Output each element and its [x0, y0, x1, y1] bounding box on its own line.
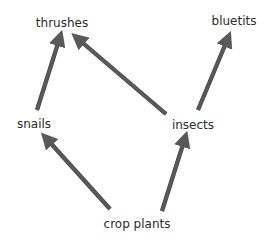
arrow-snails-to-thrushes — [37, 37, 60, 110]
arrow-crop_plants-to-snails — [46, 138, 110, 209]
arrow-insects-to-bluetits — [198, 38, 228, 110]
arrow-crop_plants-to-insects — [162, 138, 185, 211]
node-insects: insects — [172, 118, 214, 132]
node-bluetits: bluetits — [212, 14, 257, 28]
arrow-insects-to-thrushes — [77, 38, 166, 114]
node-snails: snails — [17, 117, 51, 131]
node-crop-plants: crop plants — [104, 217, 171, 231]
node-thrushes: thrushes — [36, 16, 88, 30]
